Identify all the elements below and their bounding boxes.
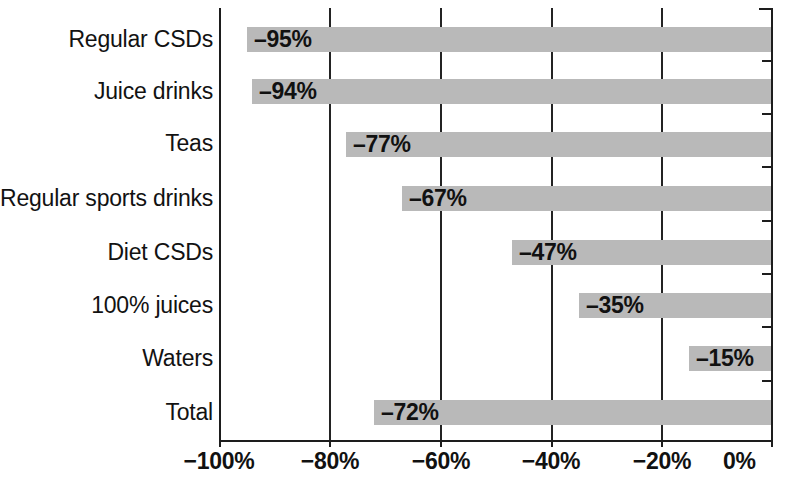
xtick-label-minus-80: −80% (275, 448, 385, 475)
bar-regular-sports-drinks: –67% (402, 186, 771, 211)
bar-value-waters: –15% (689, 346, 754, 371)
ytick-row-3 (762, 166, 773, 168)
bar-regular-csds: –95% (247, 27, 771, 52)
xtick-minus-40 (551, 440, 553, 447)
bar-total: –72% (374, 400, 771, 425)
xtick-label-minus-60: −60% (386, 448, 496, 475)
xtick-label-minus-20: −20% (607, 448, 717, 475)
category-label-teas: Teas (0, 131, 213, 156)
bar-value-100-juices: –35% (579, 293, 644, 318)
category-label-diet-csds: Diet CSDs (0, 240, 213, 265)
bar-diet-csds: –47% (512, 240, 771, 265)
bar-100-juices: –35% (579, 293, 771, 318)
bar-waters: –15% (689, 346, 771, 371)
zero-axis-line (771, 8, 773, 442)
gridline-minus-60 (440, 8, 442, 442)
plot-area: –95% –94% –77% –67% –47% –35% –15% –72% (219, 8, 773, 442)
ytick-row-1 (762, 60, 773, 62)
y-axis-line (219, 8, 221, 442)
bar-chart: Regular CSDs Juice drinks Teas Regular s… (0, 0, 808, 484)
bar-juice-drinks: –94% (252, 79, 771, 104)
gridline-minus-40 (551, 8, 553, 442)
bar-value-teas: –77% (346, 132, 411, 157)
xtick-label-minus-100: −100% (159, 448, 279, 475)
ytick-row-2 (762, 113, 773, 115)
ytick-row-7 (762, 380, 773, 382)
bar-value-regular-sports-drinks: –67% (402, 186, 467, 211)
xtick-minus-60 (440, 440, 442, 447)
axis-top-elbow (759, 8, 773, 10)
category-label-waters: Waters (0, 346, 213, 371)
ytick-row-6 (762, 326, 773, 328)
bar-value-regular-csds: –95% (247, 27, 312, 52)
xtick-label-zero: 0% (723, 448, 808, 475)
bar-teas: –77% (346, 132, 771, 157)
category-label-regular-sports-drinks: Regular sports drinks (0, 186, 213, 211)
category-label-regular-csds: Regular CSDs (0, 27, 213, 52)
category-label-juice-drinks: Juice drinks (0, 79, 213, 104)
xtick-minus-100 (219, 440, 221, 447)
bar-value-juice-drinks: –94% (252, 79, 317, 104)
category-label-100-juices: 100% juices (0, 293, 213, 318)
gridline-minus-80 (329, 8, 331, 442)
xtick-minus-20 (661, 440, 663, 447)
xtick-zero (771, 440, 773, 447)
category-label-total: Total (0, 400, 213, 425)
x-axis-line (219, 440, 773, 442)
bar-value-total: –72% (374, 400, 439, 425)
xtick-label-minus-40: −40% (496, 448, 606, 475)
ytick-row-4 (762, 220, 773, 222)
bar-value-diet-csds: –47% (512, 240, 577, 265)
xtick-minus-80 (329, 440, 331, 447)
ytick-row-5 (762, 273, 773, 275)
gridline-minus-20 (661, 8, 663, 442)
